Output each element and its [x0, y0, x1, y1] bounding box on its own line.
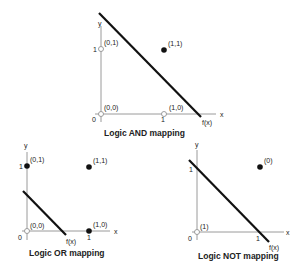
not-x-tick: 1	[256, 235, 260, 242]
and-x-label: x	[220, 111, 224, 118]
and-y-tick: 1	[93, 46, 97, 53]
and-point-10-label: (1,0)	[169, 104, 183, 112]
and-point-01	[99, 47, 104, 52]
and-point-01-label: (0,1)	[104, 39, 118, 47]
not-diagram: y x 0 1 1 f(x) (1) (0) Logic NOT mapping	[188, 141, 290, 261]
and-decision-line	[99, 13, 201, 117]
or-point-10-label: (1,0)	[93, 221, 107, 229]
and-point-10	[162, 112, 167, 117]
and-point-00-label: (0,0)	[104, 104, 118, 112]
or-title: Logic OR mapping	[29, 248, 105, 258]
and-point-11-label: (1,1)	[168, 40, 182, 48]
or-x-label: x	[114, 228, 118, 235]
or-point-11	[86, 164, 92, 170]
not-point-0	[257, 164, 263, 170]
and-title: Logic AND mapping	[104, 128, 185, 138]
not-origin-label: 0	[188, 235, 192, 242]
not-point-0-label: (0)	[264, 157, 273, 165]
or-x-tick: 1	[87, 234, 91, 241]
or-origin-label: 0	[18, 234, 22, 241]
or-point-00-label: (0,0)	[30, 222, 44, 230]
or-point-00	[25, 229, 30, 234]
not-x-label: x	[286, 229, 290, 236]
or-diagram: y x 0 1 1 f(x) (0,0) (0,1) (1,0) (1,1) L…	[18, 142, 118, 258]
and-y-label: y	[98, 20, 102, 28]
not-y-label: y	[195, 141, 199, 149]
or-point-01-label: (0,1)	[30, 156, 44, 164]
and-line-label: f(x)	[202, 119, 212, 127]
and-x-tick: 1	[161, 116, 165, 123]
or-y-tick: 1	[19, 163, 23, 170]
and-point-00	[99, 112, 104, 117]
not-point-1-label: (1)	[200, 223, 209, 231]
or-line-label: f(x)	[66, 238, 76, 246]
not-title: Logic NOT mapping	[198, 251, 279, 261]
or-y-label: y	[24, 142, 28, 150]
and-point-11	[161, 47, 167, 53]
not-point-1	[195, 230, 200, 235]
or-point-10	[86, 228, 92, 234]
and-origin-label: 0	[92, 116, 96, 123]
and-diagram: y x 0 1 1 f(x) (0,0) (0,1) (1,0) (1,1) L…	[92, 13, 224, 138]
or-point-01	[24, 163, 30, 169]
not-y-tick: 1	[189, 166, 193, 173]
or-point-11-label: (1,1)	[93, 157, 107, 165]
